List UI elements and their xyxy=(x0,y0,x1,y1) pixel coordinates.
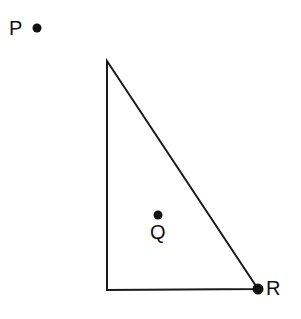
figure-canvas xyxy=(0,0,301,319)
point-r-dot xyxy=(253,284,264,295)
point-q-label: Q xyxy=(150,222,166,242)
geometry-figure: P Q R xyxy=(0,0,301,319)
point-q-dot xyxy=(154,211,163,220)
point-p-label: P xyxy=(9,18,22,38)
point-r-label: R xyxy=(266,278,280,298)
figure-background xyxy=(0,0,301,319)
point-p-dot xyxy=(33,24,42,33)
